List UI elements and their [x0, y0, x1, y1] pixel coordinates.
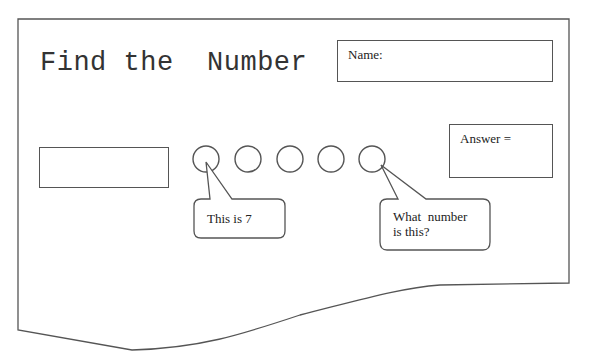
- circle-3: [277, 146, 303, 172]
- circle-4: [318, 146, 344, 172]
- callout-2-line1: What number: [393, 209, 467, 224]
- circle-1: [193, 146, 219, 172]
- name-box[interactable]: Name:: [337, 40, 553, 82]
- worksheet-title: Find the Number: [40, 48, 307, 78]
- callout-2-line2: is this?: [393, 224, 467, 239]
- answer-box[interactable]: Answer =: [449, 124, 553, 178]
- callout-1-text: This is 7: [207, 211, 252, 226]
- name-label: Name:: [348, 47, 383, 63]
- circle-2: [235, 146, 261, 172]
- empty-input-box[interactable]: [39, 147, 169, 188]
- callout-2-text: What number is this?: [393, 209, 467, 239]
- circle-5: [359, 146, 385, 172]
- answer-label: Answer =: [460, 131, 511, 147]
